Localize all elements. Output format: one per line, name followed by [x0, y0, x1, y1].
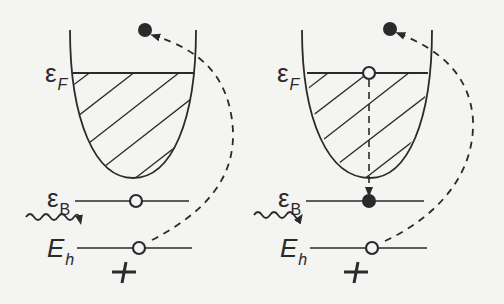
left-excited-electron	[138, 23, 152, 37]
right-fermi-empty-state	[363, 67, 375, 79]
left-dashed-excitation-arrow	[152, 36, 233, 240]
right-filled-hatching	[280, 70, 434, 200]
left-hole-label: Eh	[47, 235, 74, 261]
right-excited-electron	[383, 22, 397, 36]
left-hole-empty-state	[133, 242, 145, 254]
left-bound-label: εB	[47, 185, 70, 211]
right-fermi-label: εF	[277, 60, 299, 86]
right-positive-charge-icon	[344, 262, 368, 283]
right-bound-label: εB	[278, 185, 301, 211]
right-band-parabola	[302, 30, 432, 178]
right-bound-filled-state	[362, 194, 376, 208]
left-positive-charge-icon	[112, 262, 136, 283]
band-diagram	[0, 0, 504, 304]
right-hole-label: Eh	[280, 235, 307, 261]
right-hole-empty-state	[366, 242, 378, 254]
left-fermi-label: εF	[45, 60, 67, 86]
left-photon-wavy-arrow	[26, 214, 80, 220]
diagram-canvas: εF εB Eh εF εB Eh	[0, 0, 504, 304]
left-bound-empty-state	[130, 195, 142, 207]
right-dashed-excitation-arrow	[385, 34, 473, 241]
left-band-parabola	[70, 30, 196, 178]
